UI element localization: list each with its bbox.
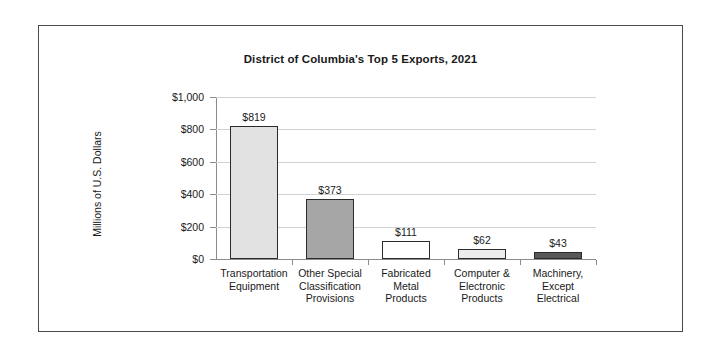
- bar-group: $43: [520, 97, 596, 259]
- y-axis-tick: [210, 162, 216, 163]
- bar-group: $373: [292, 97, 368, 259]
- axis-baseline: [216, 259, 596, 260]
- bar[interactable]: [230, 126, 278, 259]
- chart-figure-frame: District of Columbia's Top 5 Exports, 20…: [38, 25, 683, 332]
- bar-group: $111: [368, 97, 444, 259]
- x-axis-category-labels: TransportationEquipmentOther SpecialClas…: [216, 267, 596, 317]
- x-axis-tick: [292, 260, 293, 265]
- bar-group: $819: [216, 97, 292, 259]
- y-axis-tick: [210, 194, 216, 195]
- x-axis-category-label: Machinery,ExceptElectrical: [520, 267, 596, 305]
- y-axis-tick: [210, 129, 216, 130]
- plot-area: $819$373$111$62$43: [216, 97, 596, 259]
- x-axis-tick: [520, 260, 521, 265]
- y-axis-tick-label: $400: [144, 188, 204, 200]
- x-axis-category-label: Other SpecialClassificationProvisions: [292, 267, 368, 305]
- x-axis-category-label: TransportationEquipment: [216, 267, 292, 292]
- x-axis-category-label: FabricatedMetalProducts: [368, 267, 444, 305]
- y-axis-tick-label: $0: [144, 253, 204, 265]
- bar-value-label: $111: [366, 226, 446, 238]
- bar-value-label: $62: [442, 234, 522, 246]
- y-axis-tick: [210, 227, 216, 228]
- bar[interactable]: [382, 241, 430, 259]
- y-axis-tick-label: $1,000: [144, 91, 204, 103]
- y-axis-tick-labels: $0$200$400$600$800$1,000: [142, 97, 204, 260]
- y-axis-tick-label: $600: [144, 156, 204, 168]
- bar-value-label: $43: [518, 237, 598, 249]
- x-axis-tick: [368, 260, 369, 265]
- bar[interactable]: [306, 199, 354, 259]
- y-axis-tick-label: $200: [144, 221, 204, 233]
- x-axis-tick: [596, 260, 597, 265]
- y-axis-tick: [210, 97, 216, 98]
- y-axis-title: Millions of U.S. Dollars: [91, 89, 103, 279]
- bar-value-label: $373: [290, 184, 370, 196]
- bar[interactable]: [534, 252, 582, 259]
- bar[interactable]: [458, 249, 506, 259]
- x-axis-category-label: Computer &ElectronicProducts: [444, 267, 520, 305]
- chart-title: District of Columbia's Top 5 Exports, 20…: [39, 53, 682, 65]
- bar-value-label: $819: [214, 111, 294, 123]
- y-axis-tick-label: $800: [144, 123, 204, 135]
- bar-group: $62: [444, 97, 520, 259]
- y-axis-tick: [210, 259, 216, 260]
- x-axis-tick: [444, 260, 445, 265]
